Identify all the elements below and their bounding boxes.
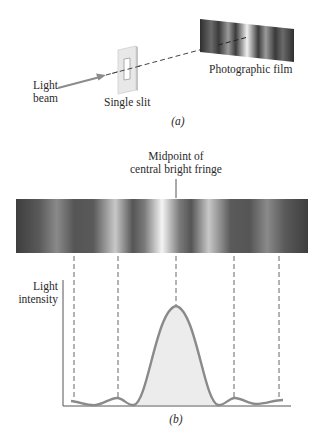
y-axis-label-line2: intensity xyxy=(0,293,58,306)
midpoint-label-line2: central bright fringe xyxy=(100,163,252,176)
midpoint-label: Midpoint of central bright fringe xyxy=(100,150,252,176)
central-peak-fill xyxy=(136,306,216,405)
fringe-pattern-band xyxy=(16,199,308,253)
light-beam-label-line1: Light xyxy=(18,79,58,92)
midpoint-label-line1: Midpoint of xyxy=(100,150,252,163)
part-a-caption: (a) xyxy=(166,115,190,128)
part-b-caption: (b) xyxy=(164,413,188,426)
y-axis-label: Light intensity xyxy=(0,280,58,306)
y-axis-label-line1: Light xyxy=(0,280,58,293)
photographic-film xyxy=(200,19,294,62)
light-beam-label: Light beam xyxy=(18,79,58,105)
photographic-film-label: Photographic film xyxy=(209,63,292,76)
single-slit-label: Single slit xyxy=(104,96,150,109)
light-beam-label-line2: beam xyxy=(18,92,58,105)
light-beam-arrow-icon xyxy=(58,74,106,89)
single-slit-plate xyxy=(118,46,138,94)
